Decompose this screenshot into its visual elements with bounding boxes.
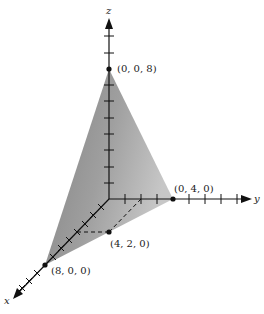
y-axis-label: y bbox=[254, 194, 260, 204]
label-y-intercept: (0, 4, 0) bbox=[174, 184, 214, 194]
label-x-intercept: (8, 0, 0) bbox=[51, 266, 91, 276]
x-axis-label: x bbox=[4, 296, 10, 306]
diagram-figure: z y x (0, 0, 8) (0, 4, 0) (8, 0, 0) (4, … bbox=[0, 0, 264, 314]
y-axis-arrowhead bbox=[241, 195, 252, 203]
axes-svg bbox=[0, 0, 264, 314]
point-z-intercept bbox=[106, 66, 111, 71]
point-y-intercept bbox=[170, 196, 175, 201]
point-mid bbox=[106, 229, 111, 234]
z-axis-arrowhead bbox=[105, 18, 113, 29]
point-x-intercept bbox=[42, 262, 47, 267]
label-mid-point: (4, 2, 0) bbox=[110, 239, 150, 249]
z-axis-label: z bbox=[106, 6, 111, 16]
label-z-intercept: (0, 0, 8) bbox=[117, 64, 157, 74]
